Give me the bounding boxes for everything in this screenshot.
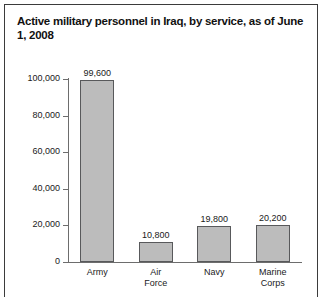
bar[interactable] xyxy=(197,226,231,262)
y-axis-tick-label: 100,000 xyxy=(27,73,60,83)
bar-group: 99,600Army xyxy=(80,79,114,262)
bar[interactable] xyxy=(80,80,114,262)
y-axis-tick-mark xyxy=(63,116,68,117)
y-axis-tick-mark xyxy=(63,262,68,263)
bar-group: 19,800Navy xyxy=(197,79,231,262)
bar[interactable] xyxy=(139,242,173,262)
y-axis-tick-mark xyxy=(63,79,68,80)
bar-group: 20,200Marine Corps xyxy=(256,79,290,262)
y-axis-tick-label: 80,000 xyxy=(32,110,60,120)
chart-figure: Active military personnel in Iraq, by se… xyxy=(4,4,318,297)
x-axis-category-label: Army xyxy=(87,267,108,278)
chart-title: Active military personnel in Iraq, by se… xyxy=(17,14,307,42)
bar[interactable] xyxy=(256,225,290,262)
plot-area: 020,00040,00060,00080,000100,000 99,600A… xyxy=(68,79,302,262)
x-axis-category-label: Navy xyxy=(204,267,225,278)
y-axis-tick-mark xyxy=(63,225,68,226)
y-axis-tick-label: 20,000 xyxy=(32,219,60,229)
y-axis-tick-label: 0 xyxy=(55,256,60,266)
x-axis-category-label: Air Force xyxy=(144,267,167,289)
bar-value-label: 20,200 xyxy=(259,213,287,223)
y-axis-tick-mark xyxy=(63,189,68,190)
y-axis-tick-label: 40,000 xyxy=(32,183,60,193)
bar-value-label: 10,800 xyxy=(142,230,170,240)
y-axis-line xyxy=(68,78,69,262)
y-axis-tick-mark xyxy=(63,152,68,153)
x-axis-line xyxy=(68,262,302,263)
bar-value-label: 19,800 xyxy=(200,214,228,224)
bar-group: 10,800Air Force xyxy=(139,79,173,262)
y-axis-tick-label: 60,000 xyxy=(32,146,60,156)
x-axis-category-label: Marine Corps xyxy=(259,267,287,289)
bar-value-label: 99,600 xyxy=(83,68,111,78)
